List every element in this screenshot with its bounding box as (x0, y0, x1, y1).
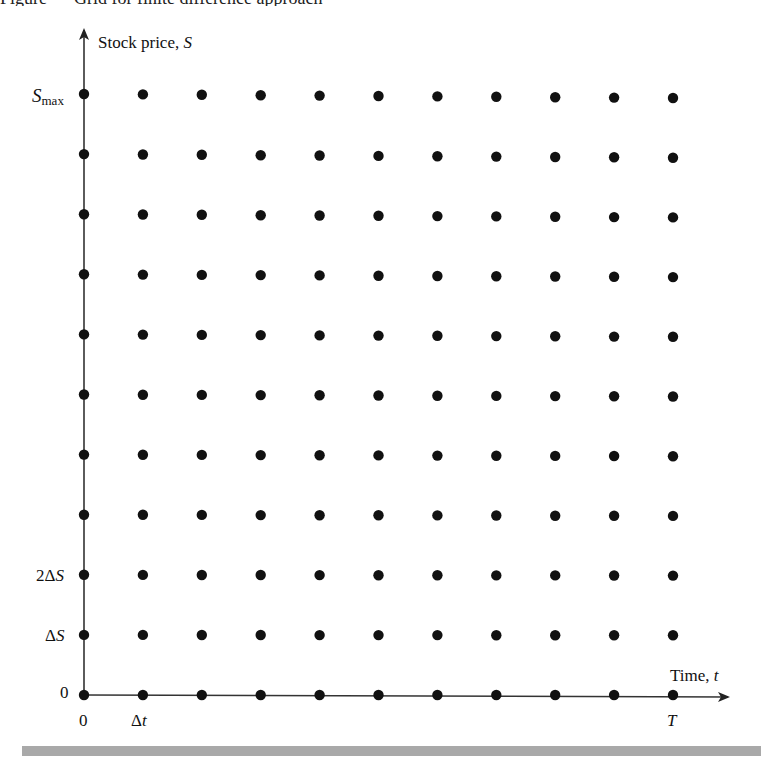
grid-node (491, 211, 501, 221)
grid-node (609, 212, 619, 222)
grid-node (138, 390, 148, 400)
grid-node (668, 272, 678, 282)
grid-node (138, 269, 148, 279)
grid-node (373, 510, 383, 520)
grid-node (314, 630, 324, 640)
grid-node (491, 391, 501, 401)
grid-node (373, 91, 383, 101)
x-tick-zero: 0 (79, 712, 88, 729)
grid-node (373, 151, 383, 161)
grid-node (197, 450, 207, 460)
grid-node (314, 690, 324, 700)
grid-node (373, 630, 383, 640)
grid-node (138, 149, 148, 159)
grid-node (668, 690, 678, 700)
grid-node (609, 451, 619, 461)
grid-node (609, 391, 619, 401)
grid-node (491, 92, 501, 102)
grid-node (609, 690, 619, 700)
grid-node (79, 449, 89, 459)
grid-node (432, 271, 442, 281)
grid-node (79, 690, 89, 700)
grid-node (550, 212, 560, 222)
grid-node (256, 630, 266, 640)
grid-node (138, 450, 148, 460)
grid-node (550, 690, 560, 700)
grid-node (197, 510, 207, 520)
grid-node (491, 630, 501, 640)
grid-node (197, 390, 207, 400)
grid-node (79, 510, 89, 520)
grid-node (668, 451, 678, 461)
grid-node (373, 390, 383, 400)
grid-node (432, 91, 442, 101)
grid-node (79, 209, 89, 219)
grid-node (256, 570, 266, 580)
grid-node (79, 269, 89, 279)
y-tick-2-delta-s: 2ΔS (36, 567, 64, 584)
grid-node (197, 270, 207, 280)
grid-node (256, 270, 266, 280)
grid-node (550, 152, 560, 162)
grid-node (256, 510, 266, 520)
grid-node (668, 212, 678, 222)
grid-node (79, 149, 89, 159)
grid-node (432, 510, 442, 520)
grid-node (79, 329, 89, 339)
grid-node (373, 330, 383, 340)
grid-node (609, 331, 619, 341)
grid-node (491, 451, 501, 461)
grid-node (256, 90, 266, 100)
grid-node (314, 330, 324, 340)
grid-node (138, 570, 148, 580)
grid-node (550, 92, 560, 102)
grid-node (314, 450, 324, 460)
grid-node (314, 570, 324, 580)
grid-node (432, 211, 442, 221)
y-tick-s-max: Smax (32, 86, 64, 105)
grid-node (550, 451, 560, 461)
grid-node (432, 450, 442, 460)
grid-node (79, 89, 89, 99)
grid-node (314, 270, 324, 280)
x-axis-line (84, 695, 728, 697)
grid-node (550, 391, 560, 401)
grid-node (314, 150, 324, 160)
grid-node (668, 153, 678, 163)
grid-node (256, 390, 266, 400)
grid-nodes (79, 89, 678, 700)
grid-node (432, 690, 442, 700)
grid-node (256, 690, 266, 700)
grid-node (197, 330, 207, 340)
grid-node (668, 93, 678, 103)
grid-node (491, 570, 501, 580)
y-tick-delta-s: ΔS (45, 627, 64, 644)
grid-node (609, 272, 619, 282)
x-tick-delta-t: Δt (131, 712, 147, 729)
grid-node (138, 690, 148, 700)
x-axis-label: Time, t (670, 667, 719, 684)
grid-node (609, 570, 619, 580)
grid-node (668, 391, 678, 401)
y-axis-label: Stock price, S (98, 34, 192, 51)
grid-node (373, 570, 383, 580)
grid-node (138, 510, 148, 520)
grid-node (138, 329, 148, 339)
grid-node (668, 511, 678, 521)
grid-node (314, 510, 324, 520)
grid-node (491, 151, 501, 161)
grid-node (550, 331, 560, 341)
grid-node (256, 150, 266, 160)
grid-node (373, 211, 383, 221)
grid-node (550, 630, 560, 640)
grid-node (138, 89, 148, 99)
grid-node (314, 390, 324, 400)
grid-node (432, 391, 442, 401)
grid-node (432, 331, 442, 341)
grid-node (609, 511, 619, 521)
grid-node (373, 690, 383, 700)
grid-node (373, 450, 383, 460)
grid-node (314, 90, 324, 100)
grid-node (373, 271, 383, 281)
grid-node (197, 90, 207, 100)
